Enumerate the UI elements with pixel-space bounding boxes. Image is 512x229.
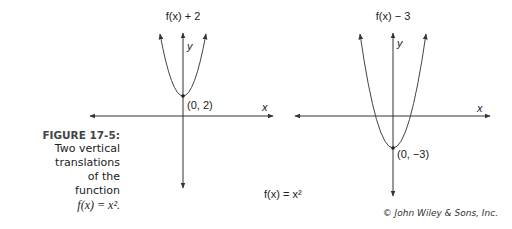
right-y-label: y — [396, 37, 404, 49]
left-y-label: y — [186, 40, 194, 52]
right-vertex-point — [391, 146, 395, 150]
left-graph-title: f(x) + 2 — [166, 10, 201, 22]
right-vertex-label: (0, −3) — [397, 148, 429, 160]
right-graph: f(x) − 3 y x (0, −3) — [295, 10, 490, 196]
copyright-credit: © John Wiley & Sons, Inc. — [383, 208, 498, 218]
base-function-label: f(x) = x² — [264, 188, 302, 200]
left-graph: f(x) + 2 y x (0, 2) — [90, 10, 273, 188]
right-x-label: x — [476, 102, 483, 114]
graphs-canvas: f(x) + 2 y x (0, 2) f(x) − 3 y x (0, −3)… — [0, 0, 512, 229]
left-vertex-point — [181, 94, 185, 98]
left-vertex-label: (0, 2) — [187, 99, 213, 111]
left-x-label: x — [261, 101, 268, 113]
right-graph-title: f(x) − 3 — [376, 10, 411, 22]
